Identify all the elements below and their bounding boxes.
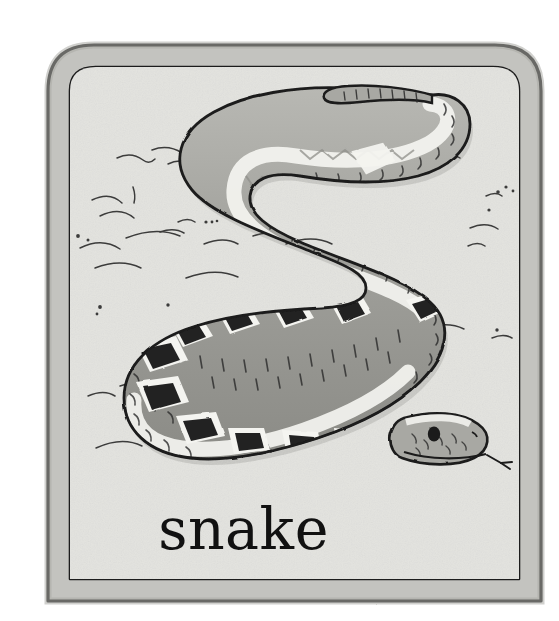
snake-eye (428, 427, 440, 442)
flashcard: snake (0, 0, 559, 621)
scene (70, 67, 519, 579)
flashcard-illustration (0, 0, 559, 621)
